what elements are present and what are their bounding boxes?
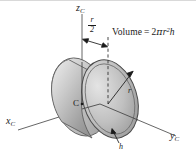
axis-label-x: xC (6, 116, 15, 128)
figure-container: zC xC yC C r h r 2 Volume = 2πr2h (0, 0, 196, 163)
volume-formula-thickness: h (170, 27, 175, 37)
half-radius-denominator: 2 (88, 26, 96, 34)
volume-formula-lhs: Volume (112, 27, 142, 37)
figure-illustration (0, 0, 196, 163)
axis-label-y: yC (170, 131, 179, 143)
center-point-marker (81, 103, 84, 106)
center-point-label: C (73, 99, 79, 108)
volume-formula: Volume = 2πr2h (112, 27, 175, 38)
half-radius-numerator: r (88, 16, 96, 24)
axis-label-z: zC (76, 3, 85, 15)
thickness-label: h (119, 143, 123, 151)
radius-label: r (128, 87, 131, 95)
half-radius-dimension (83, 39, 108, 48)
half-radius-label: r 2 (88, 16, 96, 35)
volume-formula-equals: = (144, 27, 149, 37)
